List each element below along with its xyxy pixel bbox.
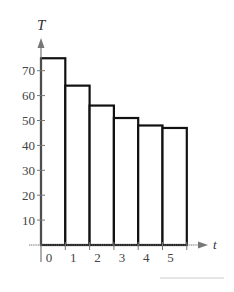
y-axis-title: T xyxy=(37,17,47,33)
step-bar-chart: 10203040506070 012345 T t xyxy=(0,0,234,292)
x-tick-label: 4 xyxy=(143,250,150,265)
x-tick-label: 5 xyxy=(167,250,174,265)
bar xyxy=(163,128,187,245)
y-tick-label: 30 xyxy=(22,163,35,178)
bar xyxy=(138,125,162,245)
x-axis-title: t xyxy=(213,237,217,252)
x-tick-label: 2 xyxy=(94,250,101,265)
y-tick-label: 40 xyxy=(22,138,35,153)
bar xyxy=(90,106,114,245)
bar xyxy=(65,86,89,245)
y-tick-label: 50 xyxy=(22,113,35,128)
y-axis-arrow-icon xyxy=(38,38,45,48)
x-tick-label: 1 xyxy=(70,250,77,265)
bar xyxy=(114,118,138,245)
y-tick-label: 60 xyxy=(22,88,35,103)
y-tick-label: 20 xyxy=(22,188,35,203)
y-tick-label: 70 xyxy=(22,63,35,78)
bars-group xyxy=(41,58,187,245)
x-tick-label: 3 xyxy=(119,250,126,265)
x-axis-arrow-icon xyxy=(198,242,208,249)
x-tick-label: 0 xyxy=(46,250,53,265)
y-tick-label: 10 xyxy=(22,213,35,228)
bar xyxy=(41,58,65,245)
